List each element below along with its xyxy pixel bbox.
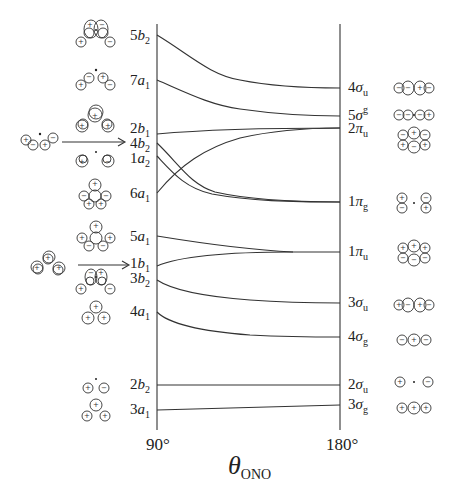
svg-text:+: + <box>79 158 85 166</box>
svg-text:−: − <box>423 194 429 202</box>
curve-1a2-1pg <box>157 156 340 202</box>
svg-text:−: − <box>105 158 111 166</box>
curve-4a1-4sg <box>157 312 340 337</box>
walsh-diagram: 5b2 7a1 2b1 4b2 1a2 6a1 5a1 1b1 3b2 4a1 … <box>0 0 452 489</box>
label-3sg: 3σg <box>348 396 368 415</box>
svg-text:+: + <box>78 38 84 46</box>
svg-text:−: − <box>81 192 87 200</box>
svg-text:−: − <box>405 111 411 119</box>
svg-text:−: − <box>417 111 423 119</box>
svg-text:+: + <box>78 285 84 293</box>
label-3a1: 3a1 <box>130 401 150 420</box>
svg-text:+: + <box>56 264 62 272</box>
svg-text:+: + <box>107 234 113 242</box>
svg-text:+: + <box>399 404 405 412</box>
svg-text:+: + <box>422 244 428 252</box>
svg-text:−: − <box>426 84 432 92</box>
svg-text:−: − <box>88 269 94 277</box>
svg-text:−: − <box>400 131 406 139</box>
label-5a1: 5a1 <box>130 228 150 247</box>
left-level-labels: 5b2 7a1 2b1 4b2 1a2 6a1 5a1 1b1 3b2 4a1 … <box>130 27 150 420</box>
svg-text:+: + <box>92 112 98 120</box>
svg-text:−: − <box>100 242 106 250</box>
orbital-sketch-7a1: + − + − <box>76 69 115 90</box>
orbital-sketch-4b2: + − + − <box>21 133 58 150</box>
svg-text:+: + <box>79 122 85 130</box>
svg-text:+: + <box>411 404 417 412</box>
curve-3a1-3sg <box>157 405 340 410</box>
arrow-to-1b1 <box>78 261 129 269</box>
orbital-sketch-5sg: − − − + <box>394 110 434 120</box>
svg-text:+: + <box>102 412 108 420</box>
svg-text:+: + <box>79 234 85 242</box>
svg-text:−: − <box>86 242 92 250</box>
orbital-sketch-1a2: + − <box>76 151 114 167</box>
svg-text:+: + <box>100 73 106 81</box>
label-7a1: 7a1 <box>130 72 150 91</box>
orbital-sketch-5b2: + − + − <box>76 20 115 47</box>
label-1pg: 1πg <box>348 193 368 212</box>
svg-text:+: + <box>422 141 428 149</box>
svg-text:−: − <box>411 143 417 151</box>
label-4a1: 4a1 <box>130 303 150 322</box>
orbital-sketch-3sg: + + + <box>397 402 431 414</box>
svg-text:+: + <box>42 141 48 149</box>
svg-text:−: − <box>107 38 113 46</box>
svg-text:−: − <box>423 336 429 344</box>
label-4sg: 4σg <box>348 328 368 347</box>
label-1pu: 1πu <box>348 243 368 262</box>
curve-5a1-1pu <box>157 236 340 252</box>
svg-text:+: + <box>400 141 406 149</box>
svg-text:−: − <box>103 192 109 200</box>
svg-text:−: − <box>411 256 417 264</box>
svg-text:−: − <box>107 81 113 89</box>
orbital-sketch-4a1: + + + <box>82 301 110 324</box>
svg-text:+: + <box>396 301 402 309</box>
svg-text:+: + <box>93 303 99 311</box>
svg-text:+: + <box>411 242 417 250</box>
arrow-to-4b2 <box>62 138 125 146</box>
label-6a1: 6a1 <box>130 185 150 204</box>
svg-text:+: + <box>105 122 111 130</box>
svg-text:+: + <box>417 301 423 309</box>
svg-text:−: − <box>86 73 92 81</box>
orbital-sketch-4sg: − + − <box>397 334 431 346</box>
tick-180: 180° <box>326 435 358 454</box>
correlation-curves <box>157 35 340 410</box>
orbital-sketch-3a1: + + + <box>82 399 110 421</box>
svg-text:+: + <box>84 412 90 420</box>
right-level-labels: 4σu 5σg 2πu 1πg 1πu 3σu 4σg 2σu 3σg <box>348 79 368 415</box>
label-2b2: 2b2 <box>130 376 150 395</box>
svg-text:−: − <box>396 111 402 119</box>
label-2pu: 2πu <box>348 120 368 139</box>
svg-text:−: − <box>405 301 411 309</box>
svg-text:+: + <box>411 129 417 137</box>
orbital-sketch-4su: − − + − <box>394 81 434 95</box>
svg-text:−: − <box>422 131 428 139</box>
svg-text:+: + <box>417 84 423 92</box>
orbital-sketch-1pu: + + + − − − <box>398 240 430 266</box>
label-2su: 2σu <box>348 376 368 395</box>
svg-text:−: − <box>400 254 406 262</box>
orbital-sketch-6a1: + − − + + <box>79 179 111 209</box>
svg-text:−: − <box>405 84 411 92</box>
orbital-sketch-2b2: + − <box>83 378 109 393</box>
svg-text:−: − <box>425 378 431 386</box>
svg-text:+: + <box>101 314 107 322</box>
svg-text:+: + <box>98 269 104 277</box>
orbital-sketch-3su: + − + − <box>394 298 434 312</box>
svg-text:+: + <box>93 222 99 230</box>
orbital-sketch-5a1: + + + − − <box>77 221 115 251</box>
svg-text:+: + <box>423 204 429 212</box>
svg-text:+: + <box>86 200 92 208</box>
svg-text:+: + <box>400 244 406 252</box>
svg-text:−: − <box>101 384 107 392</box>
svg-text:+: + <box>426 111 432 119</box>
svg-text:+: + <box>92 180 98 188</box>
label-5b2: 5b2 <box>130 27 150 46</box>
orbital-sketch-2su: + − <box>395 377 433 387</box>
orbital-sketch-2pu: − + − + − + <box>398 127 430 153</box>
svg-text:+: + <box>423 404 429 412</box>
label-3su: 3σu <box>348 294 368 313</box>
svg-text:+: + <box>45 254 51 262</box>
